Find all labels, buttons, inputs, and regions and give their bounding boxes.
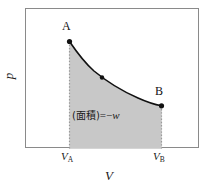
- area-annotation-variable: w: [112, 109, 119, 121]
- area-annotation-cjk: (面積): [72, 110, 100, 121]
- tick-va-subscript: A: [68, 155, 73, 164]
- point-label-b: B: [155, 84, 163, 99]
- data-point-b: [159, 103, 164, 108]
- tick-vb-subscript: B: [160, 155, 165, 164]
- area-annotation: (面積)=−w: [72, 107, 120, 122]
- tick-label-vb: VB: [153, 150, 165, 162]
- point-label-a: A: [62, 19, 71, 34]
- tick-vb-symbol: V: [153, 150, 160, 162]
- data-point-a: [67, 39, 72, 44]
- tick-label-va: VA: [61, 150, 73, 162]
- plot-canvas: [26, 9, 200, 149]
- tick-va-symbol: V: [61, 150, 68, 162]
- y-axis-title: p: [1, 73, 17, 80]
- plot-frame: [25, 8, 199, 148]
- x-axis-title: V: [105, 168, 113, 184]
- shaded-area: [70, 42, 162, 149]
- pv-diagram-figure: A B (面積)=−w VA VB p V: [0, 0, 210, 189]
- data-point-mid: [100, 75, 104, 79]
